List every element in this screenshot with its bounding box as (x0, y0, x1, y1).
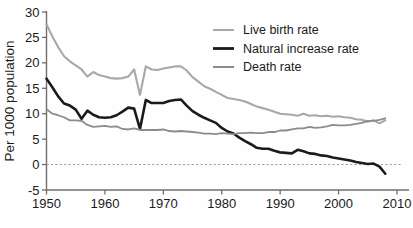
x-axis-tick-label: 1980 (207, 196, 236, 211)
y-axis-title: Per 1000 population (2, 41, 17, 162)
y-axis-tick-label: 30 (25, 5, 39, 20)
x-axis-tick-label: 1970 (149, 196, 178, 211)
axis-layer (42, 11, 409, 195)
chart-container: 302520151050-5 1950196019701980199020002… (0, 0, 413, 228)
y-axis-title-text: Per 1000 population (2, 41, 17, 162)
legend-label: Live birth rate (243, 23, 319, 37)
legend-label: Natural increase rate (243, 42, 359, 56)
y-axis-tick-label: 5 (32, 132, 39, 147)
x-axis-tick-label: 2010 (383, 196, 412, 211)
y-axis-tick-label: 0 (32, 157, 39, 172)
legend-label: Death rate (243, 60, 301, 74)
series-line (47, 24, 386, 123)
y-axis-tick-label: 10 (25, 106, 39, 121)
x-axis-tick-label: 2000 (324, 196, 353, 211)
x-axis-tick-labels: 1950196019701980199020002010 (32, 196, 411, 211)
y-axis-tick-label: 25 (25, 30, 39, 45)
y-axis-tick-label: 20 (25, 55, 39, 70)
line-chart-plot: 302520151050-5 1950196019701980199020002… (0, 0, 413, 228)
x-axis-tick-label: 1950 (32, 196, 61, 211)
y-axis-tick-label: 15 (25, 81, 39, 96)
y-axis-tick-labels: 302520151050-5 (25, 5, 39, 198)
x-axis-tick-label: 1990 (266, 196, 295, 211)
x-axis-tick-label: 1960 (90, 196, 119, 211)
chart-legend: Live birth rateNatural increase rateDeat… (213, 23, 359, 74)
